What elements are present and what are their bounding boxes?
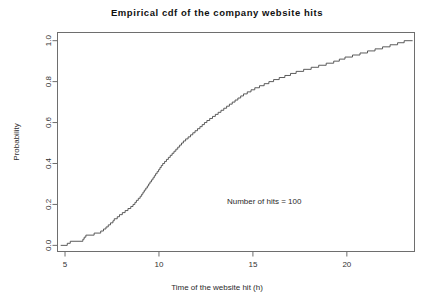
- annotation-group: Number of hits = 100: [227, 197, 302, 206]
- x-tick-label: 10: [155, 260, 164, 269]
- y-tick-label: 0.2: [44, 198, 53, 210]
- y-axis-title: Probability: [12, 123, 21, 160]
- x-axis-title: Time of the website hit (h): [171, 283, 263, 292]
- chart-annotation: Number of hits = 100: [227, 197, 302, 206]
- plot-frame: [58, 33, 415, 252]
- y-tick-label: 0.6: [44, 116, 53, 128]
- y-tick-label: 1.0: [44, 35, 53, 47]
- y-tick-label: 0.4: [44, 157, 53, 169]
- ecdf-step-line: [61, 41, 413, 246]
- y-axis-ticks: 0.00.20.40.60.81.0: [44, 35, 58, 251]
- x-axis-ticks: 5101520: [63, 252, 352, 269]
- x-tick-label: 15: [248, 260, 257, 269]
- ecdf-series-group: [61, 41, 413, 246]
- ecdf-plot-svg: 5101520 0.00.20.40.60.81.0 Number of hit…: [0, 0, 434, 305]
- y-tick-label: 0.0: [44, 239, 53, 251]
- y-tick-label: 0.8: [44, 76, 53, 88]
- x-tick-label: 5: [63, 260, 68, 269]
- x-tick-label: 20: [342, 260, 351, 269]
- chart-container: Empirical cdf of the company website hit…: [0, 0, 434, 305]
